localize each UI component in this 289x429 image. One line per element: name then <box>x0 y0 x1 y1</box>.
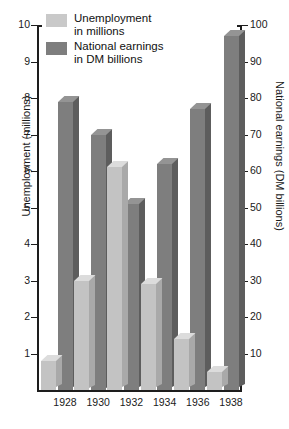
legend-swatch-unemployment <box>46 14 67 27</box>
bar-side <box>239 30 245 387</box>
left-tick-label-3: 3 <box>24 275 30 285</box>
left-tick-10 <box>31 25 38 26</box>
x-axis-label-1938: 1938 <box>211 396 251 408</box>
left-tick-8 <box>31 98 38 99</box>
bar-front <box>74 281 89 391</box>
left-tick-4 <box>31 244 38 245</box>
legend-item-unemployment: Unemployment in millions <box>46 12 164 37</box>
bar-side <box>122 161 128 387</box>
left-axis-line <box>37 25 39 392</box>
right-tick-100 <box>241 25 248 26</box>
left-tick-2 <box>31 317 38 318</box>
legend-label-national-earnings: National earnings in DM billions <box>74 40 164 65</box>
left-tick-label-8: 8 <box>24 92 30 102</box>
bar-unemployment-1928 <box>41 361 56 390</box>
bar-front <box>174 339 189 390</box>
right-tick-label-10: 10 <box>250 348 262 358</box>
left-tick-label-5: 5 <box>24 202 30 212</box>
left-tick-label-7: 7 <box>24 129 30 139</box>
right-tick-label-20: 20 <box>250 311 262 321</box>
legend-swatch-national-earnings <box>46 42 67 55</box>
left-tick-3 <box>31 281 38 282</box>
left-tick-label-1: 1 <box>24 348 30 358</box>
left-tick-6 <box>31 171 38 172</box>
left-tick-1 <box>31 354 38 355</box>
left-tick-5 <box>31 208 38 209</box>
left-tick-7 <box>31 135 38 136</box>
bar-front <box>207 372 222 390</box>
bar-front <box>141 284 156 390</box>
bar-front <box>41 361 56 390</box>
bar-front <box>58 102 73 390</box>
bottom-axis-line <box>37 390 242 392</box>
bar-unemployment-1934 <box>141 284 156 390</box>
right-tick-label-40: 40 <box>250 238 262 248</box>
bar-side <box>205 103 211 387</box>
right-tick-label-70: 70 <box>250 129 262 139</box>
bar-national-earnings-1938 <box>224 36 239 390</box>
bar-national-earnings-1928 <box>58 102 73 390</box>
right-tick-label-50: 50 <box>250 202 262 212</box>
bar-unemployment-1930 <box>74 281 89 391</box>
bar-front <box>224 36 239 390</box>
right-tick-label-80: 80 <box>250 92 262 102</box>
bar-chart: Unemployment in millions National earnin… <box>0 0 289 429</box>
legend-item-national-earnings: National earnings in DM billions <box>46 40 164 65</box>
right-axis-title: National earnings (DM billions) <box>274 66 286 246</box>
bar-front <box>107 167 122 390</box>
bar-unemployment-1938 <box>207 372 222 390</box>
left-tick-9 <box>31 62 38 63</box>
bar-unemployment-1936 <box>174 339 189 390</box>
right-tick-label-90: 90 <box>250 56 262 66</box>
bar-side <box>89 274 95 387</box>
left-tick-label-9: 9 <box>24 56 30 66</box>
left-tick-label-6: 6 <box>24 165 30 175</box>
bar-side <box>156 278 162 387</box>
right-tick-label-100: 100 <box>250 19 268 29</box>
left-tick-label-10: 10 <box>18 19 30 29</box>
bar-side <box>189 333 195 387</box>
legend-label-unemployment: Unemployment in millions <box>74 12 151 37</box>
right-tick-label-30: 30 <box>250 275 262 285</box>
left-tick-label-4: 4 <box>24 238 30 248</box>
left-tick-label-2: 2 <box>24 311 30 321</box>
right-tick-label-60: 60 <box>250 165 262 175</box>
chart-legend: Unemployment in millions National earnin… <box>46 12 164 68</box>
bar-unemployment-1932 <box>107 167 122 390</box>
